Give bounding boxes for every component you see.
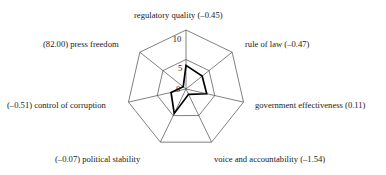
axis-label-rule-of-law: rule of law (–0.47) xyxy=(245,40,309,49)
axis-label-voice-and-accountability: voice and accountability (–1.54) xyxy=(214,155,325,164)
radar-chart: 10 5 0 regulatory quality (–0.45) rule o… xyxy=(0,0,386,175)
radar-spokes xyxy=(128,30,243,142)
axis-label-regulatory-quality: regulatory quality (–0.45) xyxy=(134,11,223,20)
tick-label-10: 10 xyxy=(173,34,182,44)
radar-grid xyxy=(128,30,243,142)
radar-chart-canvas: 10 5 0 xyxy=(0,0,386,175)
axis-label-press-freedom: (82.00) press freedom xyxy=(43,40,119,49)
axis-label-control-of-corruption: (–0.51) control of corruption xyxy=(7,101,106,110)
axis-label-government-effectiveness: government effectiveness (0.11) xyxy=(255,101,366,110)
tick-label-5: 5 xyxy=(178,63,182,73)
tick-label-0: 0 xyxy=(176,84,180,94)
radar-spoke xyxy=(186,89,244,102)
axis-label-political-stability: (–0.07) political stability xyxy=(55,155,140,164)
